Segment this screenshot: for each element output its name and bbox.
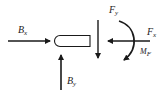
label-by: By — [67, 75, 77, 88]
free-body-diagram: Bx By Fy Fx MF — [0, 0, 163, 97]
label-bx: Bx — [18, 24, 28, 37]
label-mf: MF — [139, 47, 152, 58]
label-fx: Fx — [146, 26, 157, 39]
label-fy: Fy — [108, 4, 119, 17]
member-body — [55, 36, 91, 47]
